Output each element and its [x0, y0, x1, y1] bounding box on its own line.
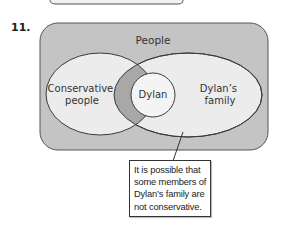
family-label: Dylan’s family	[200, 83, 240, 106]
callout-line: not conservative.	[134, 201, 206, 213]
callout-line: some members of	[134, 176, 206, 188]
universe-label: People	[136, 34, 171, 46]
previous-figure-edge	[50, 0, 183, 4]
dylan-label: Dylan	[139, 89, 168, 100]
callout-note: It is possible that some members of Dyla…	[129, 160, 211, 217]
callout-line: Dylan’s family are	[134, 188, 206, 200]
callout-line: It is possible that	[134, 164, 206, 176]
